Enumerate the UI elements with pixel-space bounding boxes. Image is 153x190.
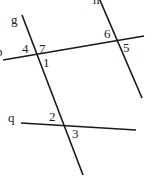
angle-label-3: 3 [72,127,79,140]
angle-label-6: 6 [104,27,111,40]
label-line-q: q [8,111,15,124]
angle-label-1: 1 [43,56,50,69]
label-line-h: h [93,0,100,6]
label-line-g: g [11,13,18,26]
angle-label-5: 5 [123,41,130,54]
angle-label-7: 7 [39,42,46,55]
line-g [22,15,83,175]
line-q [21,123,136,130]
line-h [99,0,142,98]
label-line-p: p [0,45,3,58]
diagram-canvas [0,0,153,190]
angle-label-4: 4 [22,42,29,55]
angle-label-2: 2 [49,110,56,123]
